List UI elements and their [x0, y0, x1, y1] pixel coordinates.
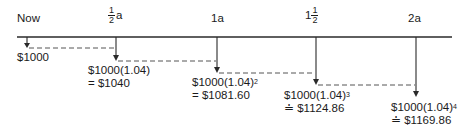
value-label-two-years: $1000(1.04)4 ≐ $1169.86	[391, 101, 457, 127]
value-label-one-year: $1000(1.04)2 = $1081.60	[192, 76, 258, 102]
arrow-down-icon	[24, 43, 30, 48]
value-label-half-year: $1000(1.04) = $1040	[88, 64, 150, 90]
period-label-now: Now	[17, 12, 40, 25]
period-label-half-year: 12a	[108, 6, 122, 25]
value-label-one-and-half-year: $1000(1.04)3 ≐ $1124.86	[284, 89, 350, 115]
arrow-down-icon	[113, 55, 119, 61]
period-label-two-years: 2a	[408, 12, 421, 25]
arrow-down-icon	[413, 91, 419, 97]
period-label-one-and-half-year: 112	[305, 6, 319, 25]
arrow-down-icon	[313, 79, 319, 85]
arrow-down-icon	[214, 67, 220, 73]
value-label-now: $1000	[17, 51, 49, 64]
period-label-one-year: 1a	[211, 12, 224, 25]
